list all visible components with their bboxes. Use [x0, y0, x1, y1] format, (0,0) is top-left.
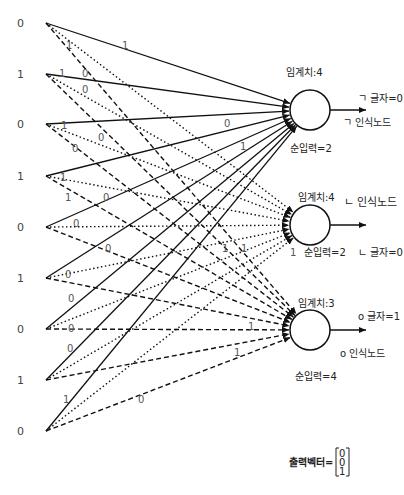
threshold-label: 임계치:4 [298, 191, 335, 203]
weight-label: 1 [241, 243, 247, 254]
edge-input7-node2 [46, 236, 292, 380]
weight-label: 1 [60, 172, 66, 183]
edge-input4-node2 [46, 225, 289, 227]
weight-label: 1 [122, 40, 128, 51]
input-value: 0 [17, 221, 24, 234]
weight-label: 0 [138, 394, 144, 405]
output-vector-label: 출력벡터= [289, 456, 333, 468]
threshold-label: 임계치:4 [286, 66, 323, 78]
node-name-label: o 인식노드 [340, 348, 385, 359]
output-letter-label: o 글자=1 [358, 311, 400, 322]
weight-label: 0 [82, 84, 88, 95]
weight-label: 1 [222, 243, 228, 254]
weight-label: 1 [66, 40, 72, 51]
input-value: 0 [17, 118, 24, 131]
input-value: 1 [17, 374, 24, 387]
weight-label: 1 [63, 394, 69, 405]
node-circle [290, 310, 330, 350]
edge-input7-node1 [46, 125, 295, 380]
weight-label: 0 [73, 218, 79, 229]
weight-label: 0 [72, 143, 78, 154]
input-value: 1 [17, 170, 24, 183]
node-circle [290, 90, 330, 130]
weight-label: 1 [61, 120, 67, 131]
output-node-1: 임계치:4 순입력=2 ㄱ 글자=0 ㄱ 인식노드 [286, 66, 403, 154]
weight-label: 1 [248, 321, 254, 332]
edge-input4-node1 [46, 119, 291, 228]
bracket-right [346, 448, 349, 476]
weight-label: 0 [103, 192, 109, 203]
weight-label: 0 [68, 293, 74, 304]
vector-value: 1 [339, 466, 345, 477]
perceptron-diagram: 010101010 11100100110000000100111111 임계치… [0, 0, 404, 495]
input-value: 0 [17, 425, 24, 438]
edge-input0-node3 [46, 23, 296, 314]
input-value: 1 [17, 272, 24, 285]
weight-label: 0 [98, 132, 104, 143]
edge-input6-node2 [46, 233, 291, 329]
weight-label: 1 [240, 141, 246, 152]
output-node-3: 임계치:3 순입력=4 o 글자=1 o 인식노드 [290, 297, 400, 382]
node-name-label: ㄱ 인식노드 [343, 117, 391, 128]
input-value: 0 [17, 323, 24, 336]
node-name-label: ㄴ 인식노드 [344, 196, 398, 209]
output-letter-label: ㄴ 글자=0 [358, 247, 403, 258]
input-value: 0 [17, 17, 24, 30]
weight-label: 0 [65, 269, 71, 280]
threshold-label: 임계치:3 [298, 297, 335, 309]
edge-input5-node2 [46, 229, 289, 278]
weight-label: 0 [67, 343, 73, 354]
edge-input3-node2 [46, 176, 289, 221]
weight-label: 0 [105, 243, 111, 254]
net-input-label: 순입력=4 [295, 370, 337, 382]
net-input-label: 순입력=2 [304, 246, 346, 258]
weight-label: 1 [290, 247, 296, 258]
weight-label: 0 [68, 323, 74, 334]
weight-label: 0 [82, 68, 88, 79]
weight-label: 0 [224, 118, 230, 129]
edge-input5-node3 [46, 278, 289, 326]
weight-label: 1 [59, 68, 65, 79]
output-node-2: 임계치:4 순입력=2 ㄴ 인식노드 ㄴ 글자=0 [290, 191, 403, 258]
output-letter-label: ㄱ 글자=0 [358, 93, 403, 104]
edge-input2-node3 [46, 124, 293, 317]
net-input-label: 순입력=2 [290, 142, 332, 154]
node-circle [290, 205, 330, 245]
weight-label: 1 [234, 347, 240, 358]
input-labels-group: 010101010 [17, 17, 24, 438]
weight-label: 1 [65, 192, 71, 203]
edge-input8-node3 [46, 338, 290, 432]
weight-labels-group: 11100100110000000100111111 [59, 40, 296, 405]
input-value: 1 [17, 68, 24, 81]
edge-input2-node1 [46, 111, 289, 124]
edge-input7-node3 [46, 334, 289, 380]
edge-input2-node2 [46, 124, 290, 218]
output-vector: 출력벡터= 0 0 1 [289, 448, 349, 477]
